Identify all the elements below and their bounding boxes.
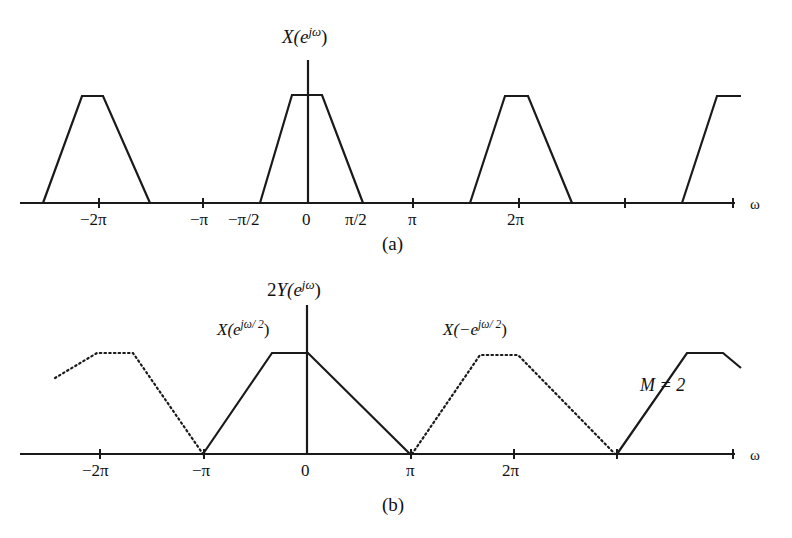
panel-a-ticklabel-2pi: 2π xyxy=(507,210,524,230)
panel-a-ticklabel-zero: 0 xyxy=(302,210,311,230)
panel-a-signal-label-exponent: jω xyxy=(308,24,321,39)
panel-a-ticklabel-neg-half-pi: −π/2 xyxy=(228,210,259,230)
panel-a-ticklabel-negpi: −π xyxy=(190,210,208,230)
panel-a-trapezoid-baseband xyxy=(260,95,363,203)
panel-b-trapezoid-dotted-neg2pi xyxy=(55,353,203,454)
panel-b-caption: (b) xyxy=(382,494,404,516)
panel-b-ticklabel-negpi: −π xyxy=(192,461,210,481)
panel-a-ticklabel-half-pi: π/2 xyxy=(345,210,367,230)
panel-b-label-x-odd-tail: ) xyxy=(501,320,507,339)
panel-a-signal-label: X(ejω) xyxy=(282,24,327,48)
figure-root: X(ejω) −2π −π −π/2 0 π/2 π 2π ω (a) 2Y(e… xyxy=(0,0,792,538)
panel-b-label-x-odd-exponent: jω/ 2 xyxy=(478,318,501,331)
panel-a-graphics xyxy=(20,60,741,208)
panel-b-trapezoid-dotted-2pi xyxy=(412,355,615,454)
panel-a-trapezoid-4pi-clipped xyxy=(682,96,741,203)
spectra-svg xyxy=(0,0,792,538)
panel-b-label-x-even-exponent: jω/ 2 xyxy=(241,318,264,331)
panel-b-ticklabel-2pi: 2π xyxy=(502,461,519,481)
panel-a-caption: (a) xyxy=(382,233,403,255)
panel-a-axis-label-omega: ω xyxy=(750,196,760,213)
panel-b-label-x-even: X(ejω/ 2) xyxy=(217,318,270,340)
panel-b-label-x-even-tail: ) xyxy=(264,320,270,339)
panel-b-axis-label-omega: ω xyxy=(750,447,760,464)
panel-a-signal-label-main: X(e xyxy=(282,26,308,47)
panel-a-ticklabel-pi: π xyxy=(408,210,417,230)
panel-b-title-label: 2Y(ejω) xyxy=(267,277,321,301)
panel-b-title-main: Y(e xyxy=(277,279,302,300)
panel-b-title-exponent: jω xyxy=(302,277,315,292)
panel-b-ticklabel-pi: π xyxy=(406,461,415,481)
panel-b-label-x-odd: X(−ejω/ 2) xyxy=(443,318,507,340)
panel-b-title-prefix: 2 xyxy=(267,279,277,300)
panel-a-ticklabel-neg2pi: −2π xyxy=(80,210,107,230)
panel-b-title-tail: ) xyxy=(315,279,321,300)
panel-b-ticklabel-neg2pi: −2π xyxy=(82,461,109,481)
panel-b-label-x-odd-main: X(−e xyxy=(443,320,478,339)
panel-b-trapezoid-solid-4pi-clipped xyxy=(617,353,741,454)
panel-a-signal-label-tail: ) xyxy=(321,26,327,47)
panel-a-trapezoid-neg2pi xyxy=(43,96,150,203)
panel-a-trapezoid-2pi xyxy=(470,96,572,203)
panel-b-graphics xyxy=(20,305,741,459)
panel-b-ticklabel-zero: 0 xyxy=(301,461,310,481)
panel-b-decimation-factor-label: M = 2 xyxy=(640,375,685,396)
panel-b-label-x-even-main: X(e xyxy=(217,320,241,339)
